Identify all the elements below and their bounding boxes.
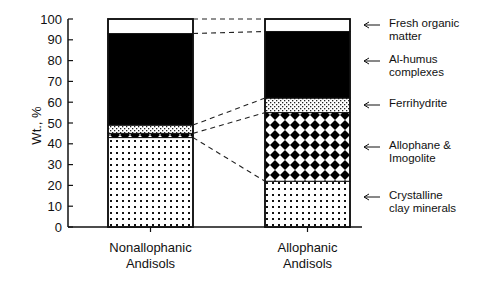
dashed-connectors xyxy=(193,19,265,181)
bar-segment xyxy=(108,125,193,133)
y-tick-label: 50 xyxy=(48,116,62,131)
bar-segment xyxy=(265,113,350,182)
y-tick-label: 30 xyxy=(48,157,62,172)
y-tick-label: 10 xyxy=(48,199,62,214)
legend-label-line: Allophane & xyxy=(389,139,451,152)
y-tick-label: 90 xyxy=(48,32,62,47)
legend-label-line: Ferrihydrite xyxy=(389,97,447,110)
legend-item: Crystallineclay minerals xyxy=(389,189,456,215)
bar-segment xyxy=(108,19,193,34)
legend-label-line: Fresh organic xyxy=(389,17,459,30)
legend-label-line: matter xyxy=(389,30,459,43)
y-tick-label: 20 xyxy=(48,178,62,193)
legend-label-line: clay minerals xyxy=(389,202,456,215)
bar-segment xyxy=(265,98,350,113)
y-axis-label: Wt., % xyxy=(29,96,44,156)
legend-label-line: Imogolite xyxy=(389,152,451,165)
y-tick-label: 70 xyxy=(48,74,62,89)
bar-segment xyxy=(108,138,193,227)
bar-segment xyxy=(265,31,350,98)
legend-item: Ferrihydrite xyxy=(389,97,447,110)
x-category-label: AllophanicAndisols xyxy=(238,240,378,272)
x-category-label: NonallophanicAndisols xyxy=(81,240,221,272)
bar-segment xyxy=(265,19,350,31)
bar-segment xyxy=(108,34,193,126)
legend-arrows xyxy=(364,22,380,200)
legend-label-line: Al-humus xyxy=(389,53,444,66)
bar-segment xyxy=(265,181,350,227)
legend-item: Al-humuscomplexes xyxy=(389,53,444,79)
y-tick-label: 60 xyxy=(48,95,62,110)
legend-item: Allophane &Imogolite xyxy=(389,139,451,165)
bars xyxy=(108,19,350,232)
y-tick-label: 0 xyxy=(55,220,62,235)
legend-label-line: complexes xyxy=(389,66,444,79)
y-tick-label: 100 xyxy=(40,12,62,27)
legend-label-line: Crystalline xyxy=(389,189,456,202)
legend-item: Fresh organicmatter xyxy=(389,17,459,43)
y-tick-label: 80 xyxy=(48,53,62,68)
bar-segment xyxy=(108,133,193,137)
y-tick-label: 40 xyxy=(48,136,62,151)
